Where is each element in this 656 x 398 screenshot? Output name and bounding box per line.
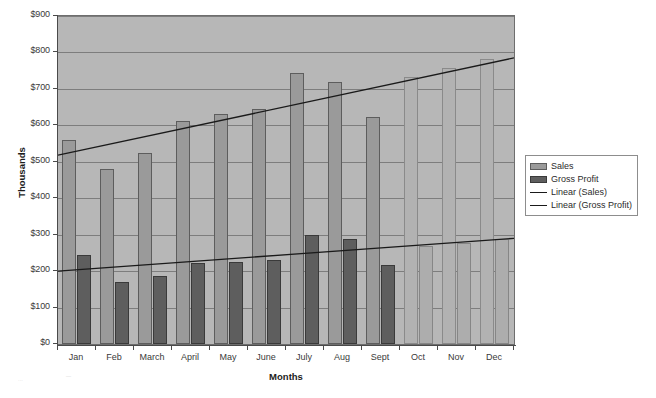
x-axis-tick bbox=[399, 346, 400, 350]
x-axis-tick-label-nov: Nov bbox=[437, 352, 475, 362]
x-axis-line bbox=[57, 345, 516, 346]
x-axis-tick-label-july: July bbox=[285, 352, 323, 362]
x-axis-tick-label-jan: Jan bbox=[57, 352, 95, 362]
bar-sales-aug bbox=[328, 82, 342, 344]
bar-sales-nov bbox=[442, 68, 456, 344]
y-axis-tick-label: $0 bbox=[0, 337, 50, 347]
bar-gross-profit-april bbox=[191, 263, 205, 344]
y-axis-title: Thousands bbox=[16, 128, 27, 218]
bar-gross-profit-nov bbox=[457, 243, 471, 344]
x-axis-tick bbox=[285, 346, 286, 350]
x-axis-tick-label-april: April bbox=[171, 352, 209, 362]
legend-color-swatch bbox=[530, 176, 547, 183]
x-axis-tick-label-oct: Oct bbox=[399, 352, 437, 362]
plot-area bbox=[57, 15, 515, 345]
gridline bbox=[58, 16, 514, 17]
bar-sales-march bbox=[138, 153, 152, 344]
bar-gross-profit-jan bbox=[77, 255, 91, 344]
bar-sales-april bbox=[176, 121, 190, 344]
x-axis-tick bbox=[171, 346, 172, 350]
chart-container: Thousands $900$800$700$600$500$400$300$2… bbox=[0, 0, 656, 398]
x-axis-tick bbox=[95, 346, 96, 350]
legend-line-marker bbox=[530, 202, 547, 209]
x-axis-title: Months bbox=[0, 371, 572, 382]
bar-sales-july bbox=[290, 73, 304, 345]
x-axis-tick bbox=[57, 346, 58, 350]
x-axis-tick bbox=[323, 346, 324, 350]
bar-gross-profit-may bbox=[229, 262, 243, 344]
y-axis-tick-label: $500 bbox=[0, 155, 50, 165]
legend-label: Sales bbox=[551, 161, 574, 171]
y-axis-tick-label: $800 bbox=[0, 45, 50, 55]
y-axis-tick-label: $400 bbox=[0, 191, 50, 201]
bar-sales-sept bbox=[366, 117, 380, 344]
x-axis-tick bbox=[133, 346, 134, 350]
x-axis-tick-label-june: June bbox=[247, 352, 285, 362]
x-axis-tick-label-feb: Feb bbox=[95, 352, 133, 362]
bar-gross-profit-aug bbox=[343, 239, 357, 344]
bar-gross-profit-march bbox=[153, 276, 167, 345]
legend-line-marker bbox=[530, 189, 547, 196]
legend-label: Gross Profit bbox=[551, 174, 599, 184]
y-axis-tick-label: $900 bbox=[0, 9, 50, 19]
scan-artifact-left: ··· bbox=[18, 377, 23, 383]
bar-sales-june bbox=[252, 109, 266, 344]
gridline bbox=[58, 52, 514, 53]
bar-gross-profit-june bbox=[267, 260, 281, 344]
x-axis-tick bbox=[247, 346, 248, 350]
scan-artifact-mid: — bbox=[66, 373, 71, 379]
x-axis-tick-label-march: March bbox=[133, 352, 171, 362]
x-axis-tick-label-dec: Dec bbox=[475, 352, 513, 362]
x-axis-tick-label-sept: Sept bbox=[361, 352, 399, 362]
bar-sales-jan bbox=[62, 140, 76, 344]
bar-gross-profit-dec bbox=[495, 239, 509, 344]
bar-sales-feb bbox=[100, 169, 114, 344]
y-axis-tick-label: $300 bbox=[0, 228, 50, 238]
x-axis-tick bbox=[475, 346, 476, 350]
y-axis-tick-label: $200 bbox=[0, 264, 50, 274]
y-axis-tick-label: $600 bbox=[0, 118, 50, 128]
bar-gross-profit-oct bbox=[419, 246, 433, 344]
bar-gross-profit-feb bbox=[115, 282, 129, 344]
chart-legend: SalesGross ProfitLinear (Sales)Linear (G… bbox=[525, 155, 638, 216]
x-axis-tick bbox=[437, 346, 438, 350]
legend-item-sales[interactable]: Sales bbox=[530, 160, 632, 172]
legend-label: Linear (Sales) bbox=[551, 187, 607, 197]
x-axis-tick bbox=[513, 346, 514, 350]
x-axis-tick-label-aug: Aug bbox=[323, 352, 361, 362]
bar-sales-may bbox=[214, 114, 228, 344]
legend-color-swatch bbox=[530, 163, 547, 170]
x-axis-tick bbox=[361, 346, 362, 350]
y-axis-tick-label: $700 bbox=[0, 82, 50, 92]
bar-sales-dec bbox=[480, 59, 494, 344]
legend-label: Linear (Gross Profit) bbox=[551, 200, 632, 210]
legend-item-linear-gross-profit[interactable]: Linear (Gross Profit) bbox=[530, 199, 632, 211]
bar-sales-oct bbox=[404, 77, 418, 344]
x-axis-tick-label-may: May bbox=[209, 352, 247, 362]
legend-item-linear-sales[interactable]: Linear (Sales) bbox=[530, 186, 632, 198]
legend-item-gross-profit[interactable]: Gross Profit bbox=[530, 173, 632, 185]
y-axis-tick-label: $100 bbox=[0, 301, 50, 311]
x-axis-tick bbox=[209, 346, 210, 350]
bar-gross-profit-sept bbox=[381, 265, 395, 344]
y-axis-line bbox=[57, 15, 58, 346]
plot-inner bbox=[58, 16, 514, 344]
bar-gross-profit-july bbox=[305, 235, 319, 344]
